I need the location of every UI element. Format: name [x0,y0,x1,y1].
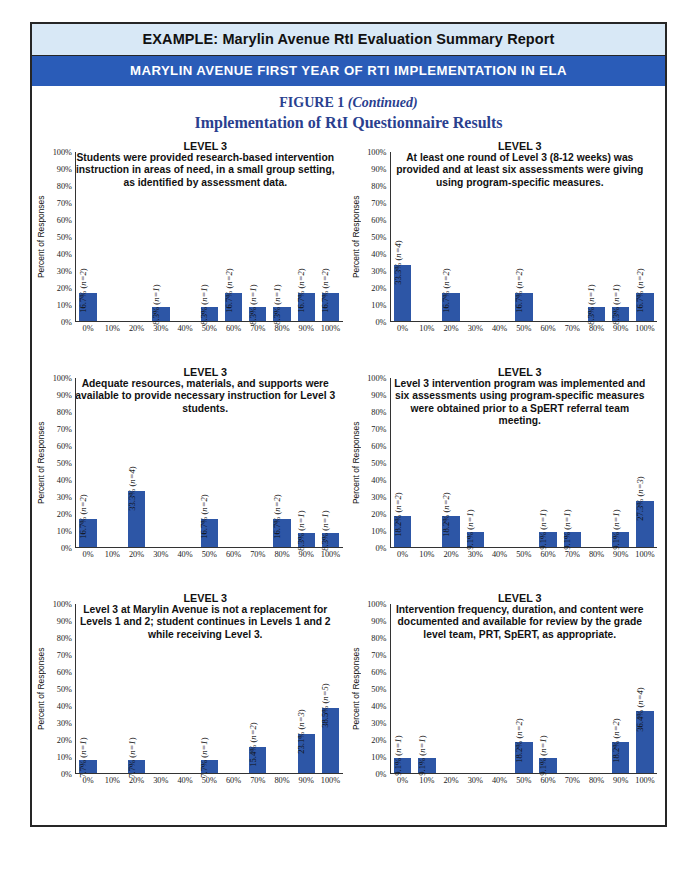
x-tick-label: 40% [487,776,511,785]
y-tick-label: 10% [57,753,72,762]
bar: 16.7% (n=2) [79,519,96,547]
y-tick-label: 20% [57,510,72,519]
y-tick-label: 80% [57,408,72,417]
y-tick-label: 60% [57,668,72,677]
x-tick-label: 90% [294,776,318,785]
bar-slot: 9.1% (n=1) [415,604,439,773]
plot-area: Percent of Responses100%90%80%70%60%50%4… [34,604,345,810]
y-tick-label: 10% [371,753,386,762]
bar-slot [584,378,608,547]
bar: 8.3% (n=1) [588,307,605,321]
bar: 18.2% (n=2) [612,742,629,773]
x-tick-label: 0% [391,550,415,559]
y-tick-label: 60% [371,668,386,677]
bar-value-label: 7.7% (n=1) [128,738,137,778]
x-tick-label: 70% [560,324,584,333]
bar-value-label: 16.7% (n=2) [80,269,89,314]
bar-slot: 8.3% (n=1) [270,152,294,321]
y-tick-label: 10% [57,301,72,310]
x-tick-label: 60% [536,550,560,559]
bar-value-label: 23.1% (n=3) [298,710,307,755]
bar-slot: 8.3% (n=1) [149,152,173,321]
bar: 8.3% (n=1) [322,533,339,547]
x-tick-label: 10% [415,550,439,559]
y-tick-label: 60% [371,216,386,225]
bar-slot [100,604,124,773]
bar-value-label: 7.7% (n=1) [80,738,89,778]
chart-level-heading: LEVEL 3 [389,140,652,152]
bar-slot: 16.7% (n=2) [76,378,100,547]
plot-area: Percent of Responses100%90%80%70%60%50%4… [34,152,345,358]
bar-slot [149,378,173,547]
x-tick-label: 20% [439,550,463,559]
x-tick-label: 60% [221,776,245,785]
x-axis-ticks: 0%10%20%30%40%50%60%70%80%90%100% [76,550,343,559]
bar: 9.1% (n=1) [612,532,629,547]
y-tick-label: 0% [61,318,72,327]
bar: 16.7% (n=2) [201,519,218,547]
y-tick-label: 70% [371,651,386,660]
bar-slot [439,604,463,773]
bar-value-label: 16.7% (n=2) [80,495,89,540]
y-tick-label: 80% [371,408,386,417]
bar-value-label: 18.2% (n=2) [394,492,403,537]
chart-grid: LEVEL 3Students were provided research-b… [32,134,665,816]
y-tick-label: 0% [61,770,72,779]
x-tick-label: 30% [149,776,173,785]
bar: 27.3% (n=3) [636,501,653,547]
y-tick-label: 10% [57,527,72,536]
bar-slot [221,604,245,773]
bar: 9.1% (n=1) [539,758,556,773]
chart-level-heading: LEVEL 3 [389,592,652,604]
bar-value-label: 9.1% (n=1) [612,510,621,550]
y-tick-label: 80% [371,634,386,643]
bar: 7.7% (n=1) [128,760,145,773]
bar-slot [270,604,294,773]
plot-area: Percent of Responses100%90%80%70%60%50%4… [349,604,660,810]
bar-value-label: 33.3% (n=4) [394,240,403,285]
bar: 15.4% (n=2) [249,747,266,773]
x-tick-label: 40% [173,324,197,333]
bar-value-label: 9.1% (n=1) [539,510,548,550]
bar-value-label: 8.3% (n=1) [273,285,282,325]
bar-slot: 15.4% (n=2) [246,604,270,773]
bar-slot: 16.7% (n=2) [270,378,294,547]
x-tick-label: 50% [197,324,221,333]
x-tick-label: 0% [76,776,100,785]
y-tick-label: 100% [367,374,386,383]
bar: 16.7% (n=2) [298,293,315,321]
bar-slot: 36.4% (n=4) [633,604,657,773]
x-tick-label: 30% [463,324,487,333]
bar-series: 7.7% (n=1)7.7% (n=1)7.7% (n=1)15.4% (n=2… [76,604,343,773]
y-tick-label: 80% [57,634,72,643]
y-tick-label: 100% [53,600,72,609]
y-tick-label: 40% [57,702,72,711]
bar-value-label: 36.4% (n=4) [636,687,645,732]
bar-value-label: 9.1% (n=1) [418,736,427,776]
x-tick-label: 40% [173,776,197,785]
bar-slot: 16.7% (n=2) [294,152,318,321]
x-tick-label: 80% [584,550,608,559]
y-tick-label: 10% [371,527,386,536]
y-tick-label: 90% [371,391,386,400]
report-example-banner: EXAMPLE: Marylin Avenue RtI Evaluation S… [32,24,665,56]
y-tick-label: 100% [367,148,386,157]
bar-value-label: 16.7% (n=2) [515,269,524,314]
bar-slot: 33.3% (n=4) [124,378,148,547]
bar-slot: 7.7% (n=1) [124,604,148,773]
y-tick-label: 30% [371,719,386,728]
x-tick-label: 90% [609,550,633,559]
bar-series: 18.2% (n=2)18.2% (n=2)9.1% (n=1)9.1% (n=… [391,378,658,547]
x-tick-label: 100% [633,324,657,333]
y-tick-label: 30% [371,267,386,276]
y-tick-label: 40% [57,476,72,485]
bar: 7.7% (n=1) [79,760,96,773]
x-tick-label: 70% [246,550,270,559]
y-tick-label: 50% [57,459,72,468]
bar-slot [536,152,560,321]
y-tick-label: 0% [375,770,386,779]
bar: 9.1% (n=1) [467,532,484,547]
figure-number: FIGURE 1 [279,95,344,110]
x-tick-label: 100% [318,324,342,333]
x-tick-label: 90% [294,324,318,333]
